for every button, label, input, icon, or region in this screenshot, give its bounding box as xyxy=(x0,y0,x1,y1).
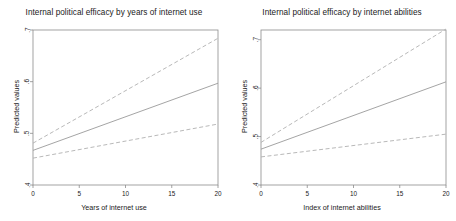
x-tick-label: 15 xyxy=(396,190,404,197)
x-tick-label: 20 xyxy=(442,190,450,197)
x-tick-label: 0 xyxy=(259,190,263,197)
plot-area-right: .4.5.6.7 05101520 xyxy=(228,0,456,221)
series-line xyxy=(261,82,446,149)
x-ticks-right: 05101520 xyxy=(259,185,450,197)
y-tick-label: .5 xyxy=(24,130,31,136)
y-ticks-right: .4.5.6.7 xyxy=(252,37,262,188)
x-tick-label: 10 xyxy=(350,190,358,197)
x-tick-label: 20 xyxy=(214,190,222,197)
y-axis-label-right: Predicted values xyxy=(240,80,249,133)
plot-area-left: .4.5.6.7 05101520 xyxy=(0,0,228,221)
x-axis-label-left: Years of internet use xyxy=(0,203,228,212)
x-tick-label: 5 xyxy=(305,190,309,197)
series-line xyxy=(33,83,218,150)
y-tick-label: .7 xyxy=(252,37,259,43)
figure-two-panel-chart: Internal political efficacy by years of … xyxy=(0,0,456,221)
y-tick-label: .6 xyxy=(24,79,31,85)
x-ticks-left: 05101520 xyxy=(31,185,222,197)
y-axis-label-left: Predicted values xyxy=(12,80,21,133)
y-tick-label: .4 xyxy=(252,182,259,188)
y-tick-label: .5 xyxy=(252,133,259,139)
y-tick-label: .7 xyxy=(24,27,31,33)
series-line xyxy=(261,29,446,142)
chart-panel-internet-abilities: Internal political efficacy by internet … xyxy=(228,0,456,221)
y-tick-label: .4 xyxy=(24,182,31,188)
x-tick-label: 10 xyxy=(122,190,130,197)
x-axis-label-right: Index of internet abilities xyxy=(228,203,456,212)
y-tick-label: .6 xyxy=(252,85,259,91)
x-tick-label: 5 xyxy=(77,190,81,197)
data-lines-right xyxy=(261,29,446,157)
series-line xyxy=(33,124,218,158)
series-line xyxy=(33,38,218,143)
x-tick-label: 15 xyxy=(168,190,176,197)
data-lines-left xyxy=(33,38,218,158)
y-ticks-left: .4.5.6.7 xyxy=(24,27,34,188)
series-line xyxy=(261,134,446,157)
chart-panel-years-of-internet-use: Internal political efficacy by years of … xyxy=(0,0,228,221)
plot-frame-left xyxy=(33,30,218,185)
plot-frame-right xyxy=(261,30,446,185)
x-tick-label: 0 xyxy=(31,190,35,197)
